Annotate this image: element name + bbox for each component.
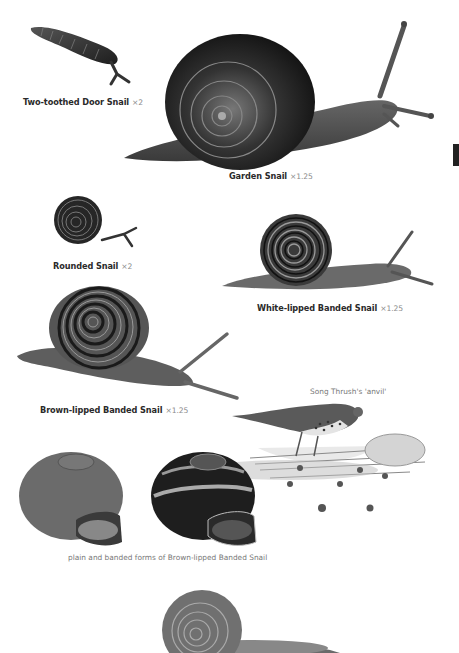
note-shell-forms: plain and banded forms of Brown-lipped B… bbox=[68, 553, 267, 562]
page-edge-tab bbox=[453, 144, 459, 166]
brown-lipped-banded-snail-illustration bbox=[15, 286, 240, 401]
song-thrush-anvil-illustration bbox=[230, 398, 435, 518]
plain-shell-illustration bbox=[16, 450, 126, 550]
caption-white-lipped-banded-snail: White-lipped Banded Snail×1.25 bbox=[257, 303, 403, 313]
two-toothed-door-snail-illustration bbox=[25, 22, 135, 92]
note-song-thrush-anvil: Song Thrush's 'anvil' bbox=[310, 387, 386, 396]
caption-garden-snail: Garden Snail×1.25 bbox=[229, 171, 313, 181]
caption-brown-lipped-banded-snail: Brown-lipped Banded Snail×1.25 bbox=[40, 405, 188, 415]
banded-shell-illustration bbox=[148, 450, 260, 550]
bottom-snail-illustration bbox=[130, 588, 340, 653]
garden-snail-illustration bbox=[122, 18, 437, 168]
caption-rounded-snail: Rounded Snail×2 bbox=[53, 261, 132, 271]
rounded-snail-illustration bbox=[52, 194, 142, 254]
white-lipped-banded-snail-illustration bbox=[220, 210, 435, 295]
